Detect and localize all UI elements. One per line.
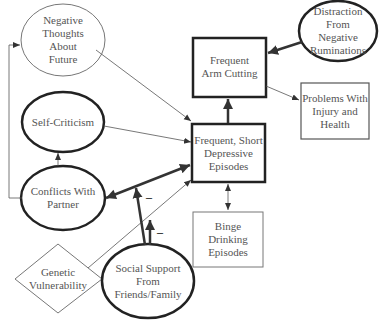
label-self-criticism: Self-Criticism bbox=[22, 112, 104, 132]
edge-armcutting-problems bbox=[266, 86, 299, 100]
label-line: Frequent bbox=[210, 54, 249, 67]
label-line: Future bbox=[49, 53, 78, 66]
edge-distraction-armcutting bbox=[268, 42, 302, 53]
label-line: About bbox=[49, 40, 77, 53]
label-distraction: Distraction From Negative Ruminations bbox=[299, 4, 377, 58]
label-line: Episodes bbox=[209, 160, 249, 173]
label-line: Friends/Family bbox=[114, 288, 181, 301]
label-negative-thoughts: Negative Thoughts About Future bbox=[21, 5, 105, 75]
label-line: Distraction bbox=[314, 5, 363, 18]
label-binge-drinking: Binge Drinking Episodes bbox=[193, 219, 263, 259]
label-line: Negative bbox=[318, 31, 358, 44]
edge-social-moderator1 bbox=[136, 188, 145, 245]
label-line: Depressive bbox=[204, 147, 253, 160]
minus-sign-2: – bbox=[157, 227, 163, 237]
label-line: Frequent, Short bbox=[194, 134, 262, 147]
label-line: Thoughts bbox=[42, 27, 84, 40]
label-problems-injury: Problems With Injury and Health bbox=[301, 91, 369, 131]
label-social-support: Social Support From Friends/Family bbox=[102, 261, 194, 301]
label-line: Partner bbox=[47, 198, 79, 211]
label-arm-cutting: Frequent Arm Cutting bbox=[193, 52, 266, 82]
label-line: Health bbox=[320, 118, 349, 131]
label-line: Conflicts With bbox=[31, 185, 95, 198]
edge-negthoughts-depressive bbox=[96, 50, 191, 121]
label-line: Injury and bbox=[312, 105, 358, 118]
label-line: Problems With bbox=[302, 92, 368, 105]
label-line: Arm Cutting bbox=[202, 67, 258, 80]
label-line: Genetic bbox=[41, 266, 75, 279]
label-line: From bbox=[136, 275, 160, 288]
label-line: Self-Criticism bbox=[32, 116, 94, 129]
minus-sign-1: – bbox=[146, 192, 152, 202]
label-line: From bbox=[326, 18, 350, 31]
label-line: Ruminations bbox=[310, 44, 366, 57]
label-line: Binge bbox=[215, 220, 241, 233]
label-line: Social Support bbox=[115, 262, 180, 275]
label-line: Drinking bbox=[208, 233, 248, 246]
label-line: Vulnerability bbox=[29, 279, 87, 292]
label-conflicts-partner: Conflicts With Partner bbox=[21, 184, 105, 212]
label-line: Negative bbox=[43, 14, 83, 27]
label-line: Episodes bbox=[208, 246, 248, 259]
label-depressive-episodes: Frequent, Short Depressive Episodes bbox=[192, 133, 265, 173]
label-genetic-vulnerability: Genetic Vulnerability bbox=[14, 265, 102, 293]
edge-selfcrit-depressive bbox=[104, 126, 191, 142]
